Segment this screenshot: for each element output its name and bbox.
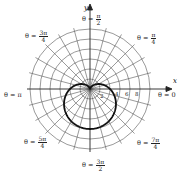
radial-tick-2: 2 bbox=[100, 94, 104, 100]
x-axis-label: x bbox=[173, 77, 177, 85]
angle-label-7pi-over-4: θ = 7π4 bbox=[137, 137, 160, 150]
angle-label-0: θ = 0 bbox=[158, 92, 176, 99]
angle-label-pi-over-4: θ = π4 bbox=[137, 32, 156, 45]
angle-label-3pi-over-2: θ = 3π2 bbox=[82, 159, 105, 172]
angle-label-3pi-over-4: θ = 3π4 bbox=[25, 30, 48, 43]
angle-label-pi-over-2: θ = π2 bbox=[82, 13, 101, 26]
radial-tick-6: 6 bbox=[125, 92, 129, 98]
radial-tick-4: 4 bbox=[115, 92, 119, 98]
angle-label-pi: θ = π bbox=[4, 92, 22, 99]
radial-tick-8: 8 bbox=[135, 92, 139, 98]
polar-plot: x y bbox=[0, 0, 188, 180]
angle-label-5pi-over-4: θ = 5π4 bbox=[24, 136, 47, 149]
